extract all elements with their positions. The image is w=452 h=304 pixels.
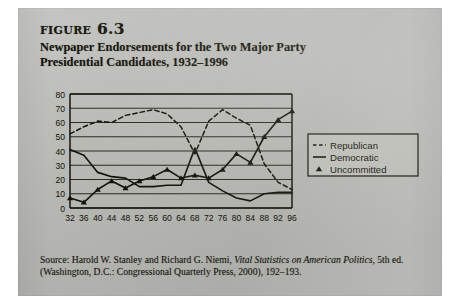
x-tick-label: 88 — [259, 213, 269, 223]
series-line-uncommitted — [70, 111, 292, 202]
data-point-marker — [164, 167, 170, 172]
y-tick-label: 10 — [55, 189, 65, 199]
x-tick-label: 84 — [246, 213, 256, 223]
legend-label-democratic: Democratic — [330, 152, 379, 163]
x-tick-label: 56 — [148, 213, 158, 223]
x-tick-label: 36 — [79, 213, 89, 223]
figure-title: Newpaper Endorsements for the Two Major … — [40, 40, 370, 71]
x-tick-label: 68 — [190, 213, 200, 223]
figure-label: figure 6.3 — [40, 19, 125, 38]
legend-label-republican: Republican — [330, 140, 378, 151]
figure-title-line-2: Presidential Candidates, 1932–1996 — [40, 55, 370, 70]
scanned-page: figure 6.3 Newpaper Endorsements for the… — [18, 8, 442, 296]
series-line-democratic — [70, 148, 292, 201]
x-tick-label: 32 — [65, 213, 75, 223]
chart-svg: 01020304050607080 3236404448525660646872… — [40, 90, 424, 240]
data-point-marker — [109, 178, 115, 183]
x-tick-label: 72 — [204, 213, 214, 223]
y-tick-label: 70 — [55, 104, 65, 114]
x-tick-label: 48 — [121, 213, 131, 223]
y-tick-label: 80 — [55, 90, 65, 100]
data-point-marker — [289, 108, 295, 113]
x-tick-label: 76 — [218, 213, 228, 223]
x-tick-label: 60 — [162, 213, 172, 223]
figure-title-line-1: Newpaper Endorsements for the Two Major … — [40, 40, 370, 55]
x-tick-label: 64 — [176, 213, 186, 223]
y-tick-label: 30 — [55, 161, 65, 171]
data-point-marker — [67, 195, 73, 200]
source-suffix: , 5th ed. — [372, 254, 403, 265]
source-note: Source: Harold W. Stanley and Richard G.… — [40, 254, 426, 279]
x-tick-label: 40 — [93, 213, 103, 223]
y-tick-label: 50 — [55, 132, 65, 142]
x-tick-label: 80 — [232, 213, 242, 223]
x-tick-label: 96 — [287, 213, 297, 223]
gridlines — [70, 94, 292, 208]
line-chart: 01020304050607080 3236404448525660646872… — [40, 90, 424, 240]
source-work-title: Vital Statistics on American Politics — [234, 254, 372, 265]
x-axis-tick-labels: 3236404448525660646872768084889296 — [65, 213, 297, 223]
source-line-2: (Washington, D.C.: Congressional Quarter… — [40, 266, 426, 278]
source-prefix: Source: Harold W. Stanley and Richard G.… — [40, 254, 234, 265]
y-tick-label: 20 — [55, 175, 65, 185]
x-tick-label: 52 — [135, 213, 145, 223]
x-tick-label: 44 — [107, 213, 117, 223]
y-tick-label: 40 — [55, 147, 65, 157]
data-point-marker — [233, 151, 239, 156]
legend-label-uncommitted: Uncommitted — [330, 164, 387, 175]
x-tick-label: 92 — [273, 213, 283, 223]
y-tick-label: 60 — [55, 118, 65, 128]
chart-legend: RepublicanDemocraticUncommitted — [308, 134, 418, 176]
y-axis-tick-labels: 01020304050607080 — [55, 90, 65, 214]
